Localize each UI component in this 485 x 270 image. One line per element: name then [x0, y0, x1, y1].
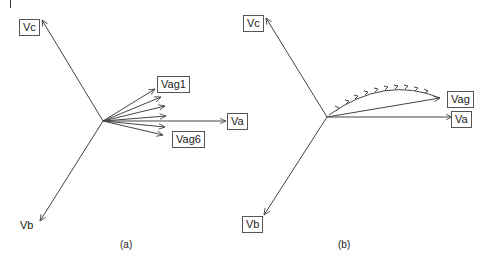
label-va-b: Va [451, 111, 472, 128]
vag5-phasor [103, 121, 165, 127]
vb-phasor-a [40, 121, 103, 221]
label-vb-b: Vb [242, 216, 263, 233]
label-vag1: Vag1 [157, 76, 190, 93]
vb-phasor-b [264, 117, 327, 215]
label-va-a: Va [227, 113, 248, 130]
vag6-phasor [103, 121, 163, 135]
trajectory-arrows [335, 85, 428, 111]
vag-trajectory [329, 90, 440, 115]
caption-a: (a) [120, 239, 132, 250]
caption-b: (b) [338, 239, 350, 250]
label-vb-a: Vb [20, 219, 33, 232]
panel-a [40, 20, 226, 221]
vc-phasor-b [266, 18, 327, 117]
label-vag6: Vag6 [172, 131, 205, 148]
panel-b [264, 18, 452, 215]
vag-phasor [327, 98, 440, 117]
vc-phasor-a [42, 20, 103, 121]
label-vc-b: Vc [243, 15, 264, 32]
label-vc-a: Vc [19, 19, 40, 36]
label-vag: Vag [447, 91, 474, 108]
vag1-phasor [103, 89, 155, 121]
